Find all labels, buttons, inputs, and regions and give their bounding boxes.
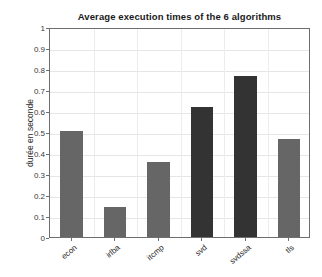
x-tick-mark xyxy=(71,238,72,241)
chart-title: Average execution times of the 6 algorit… xyxy=(49,11,310,22)
y-tick-label: 0.9 xyxy=(34,45,45,54)
y-axis-label-wrapper: durée en seconde xyxy=(8,28,22,238)
bar-econ xyxy=(60,131,83,237)
y-axis-label: durée en seconde xyxy=(25,73,35,193)
bar-tls xyxy=(278,139,301,237)
y-tick-label: 0.4 xyxy=(34,150,45,159)
y-tick-label: 0.6 xyxy=(34,108,45,117)
y-tick-label: 0.1 xyxy=(34,213,45,222)
y-tick-label: 0.7 xyxy=(34,87,45,96)
x-tick-label-tls: tls xyxy=(258,243,296,277)
y-tick-label: 0.8 xyxy=(34,66,45,75)
y-tick-label: 0.2 xyxy=(34,192,45,201)
x-tick-mark xyxy=(158,238,159,241)
x-tick-mark xyxy=(288,238,289,241)
x-tick-label-svd: svd xyxy=(171,243,209,277)
x-axis: econirlbaitcmpsvdsvdssatls xyxy=(49,238,310,277)
bar-series xyxy=(50,29,309,237)
y-tick-label: 0.5 xyxy=(34,129,45,138)
bar-svd xyxy=(191,107,214,237)
x-tick-mark xyxy=(245,238,246,241)
bar-svdssa xyxy=(234,76,257,237)
y-tick-label: 1 xyxy=(41,24,45,33)
x-tick-label-irlba: irlba xyxy=(84,243,122,277)
x-tick-mark xyxy=(114,238,115,241)
x-tick-mark xyxy=(201,238,202,241)
bar-itcmp xyxy=(147,162,170,237)
plot-area xyxy=(49,28,310,238)
chart-figure: Average execution times of the 6 algorit… xyxy=(0,0,322,277)
y-tick-label: 0.3 xyxy=(34,171,45,180)
x-tick-label-itcmp: itcmp xyxy=(128,243,166,277)
x-tick-label-svdssa: svdssa xyxy=(215,243,253,277)
bar-irlba xyxy=(104,207,127,237)
y-tick-label: 0 xyxy=(41,234,45,243)
